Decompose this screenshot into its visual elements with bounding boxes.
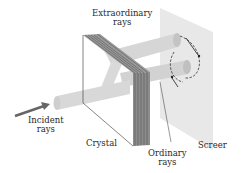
label-incident-line2: rays [28, 125, 64, 134]
label-screen: Screer [198, 141, 227, 150]
extraordinary-beam-end [173, 33, 181, 47]
label-extraordinary-line2: rays [92, 18, 152, 27]
screen-plane [160, 8, 213, 150]
label-ordinary: Ordinary rays [148, 149, 187, 167]
incident-arrow-icon [15, 102, 50, 116]
label-ordinary-line2: rays [148, 158, 187, 167]
label-extraordinary: Extraordinary rays [92, 9, 152, 27]
incident-beam [57, 80, 130, 110]
label-incident: Incident rays [28, 116, 64, 134]
ordinary-beam-end [183, 60, 191, 74]
label-crystal: Crystal [86, 139, 117, 148]
incident-beam-end [54, 96, 61, 110]
